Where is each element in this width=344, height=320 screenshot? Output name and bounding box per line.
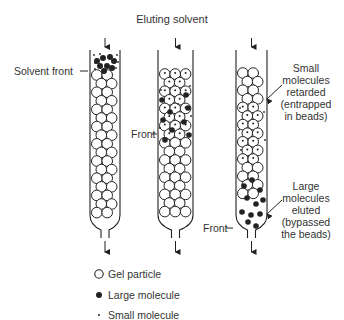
large-molecule-icon — [248, 212, 254, 218]
small-molecule-icon — [246, 114, 248, 116]
small-molecule-icon — [185, 89, 187, 91]
small-molecule-icon — [160, 89, 162, 91]
small-molecule-icon — [116, 54, 118, 56]
small-molecule-icon — [242, 157, 244, 159]
front-label-column-3: Front — [203, 222, 228, 234]
small-molecule-icon — [179, 98, 181, 100]
large-molecule-icon — [100, 55, 106, 61]
label-line: (entrapped — [271, 98, 341, 110]
small-molecules-retarded-label: Small molecules retarded (entrapped in b… — [271, 62, 341, 122]
small-molecule-icon — [257, 114, 259, 116]
gel-particle-icon — [160, 206, 171, 217]
large-molecule-icon — [253, 201, 259, 207]
large-molecule-icon — [244, 195, 250, 201]
large-molecule-icon — [159, 97, 165, 103]
small-molecule-icon — [238, 129, 240, 131]
small-molecule-icon — [257, 148, 259, 150]
large-molecule-icon — [253, 223, 259, 229]
label-line: in beads) — [271, 110, 341, 122]
label-line: the beads) — [271, 228, 341, 240]
large-molecule-icon — [249, 177, 255, 183]
large-molecule-icon — [109, 65, 115, 71]
legend-label: Gel particle — [108, 268, 161, 280]
large-molecule-icon — [260, 197, 266, 203]
small-molecule-icon — [117, 61, 119, 63]
small-molecule-icon — [242, 105, 244, 107]
legend-large-molecule: Large molecule — [94, 289, 180, 301]
gel-particle-icon — [180, 206, 191, 217]
large-molecule-icon — [185, 105, 191, 111]
small-molecule-icon — [93, 54, 95, 56]
small-molecule-icon — [242, 123, 244, 125]
legend-gel-particle: Gel particle — [94, 268, 161, 280]
small-molecule-icon — [242, 140, 244, 142]
large-molecules-eluted-label: Large molecules eluted (bypassed the bea… — [271, 180, 341, 240]
small-molecule-icon — [174, 89, 176, 91]
small-molecule-icon — [115, 67, 117, 69]
small-molecule-icon — [252, 123, 254, 125]
large-molecule-icon — [101, 68, 107, 74]
small-molecule-icon — [179, 81, 181, 83]
large-molecule-icon — [183, 92, 189, 98]
small-molecule-icon — [159, 127, 161, 129]
small-molecule-icon — [174, 124, 176, 126]
small-molecule-icon — [185, 72, 187, 74]
small-molecule-icon — [174, 72, 176, 74]
small-molecule-icon — [263, 111, 265, 113]
label-line: retarded — [271, 86, 341, 98]
large-molecule-icon — [167, 109, 173, 115]
filled-dot-icon — [94, 290, 104, 300]
label-line: Small — [271, 62, 341, 74]
gel-particle-icon — [170, 206, 181, 217]
small-molecule-icon — [168, 132, 170, 134]
small-molecule-icon — [164, 72, 166, 74]
gel-particle-icon — [92, 207, 103, 218]
legend-small-molecule: Small molecule — [94, 309, 179, 320]
small-molecule-icon — [177, 103, 179, 105]
small-molecule-icon — [179, 132, 181, 134]
open-circle-icon — [94, 269, 104, 279]
small-molecule-icon — [252, 105, 254, 107]
small-molecule-icon — [179, 115, 181, 117]
small-molecule-icon — [164, 106, 166, 108]
large-molecule-icon — [245, 219, 251, 225]
small-dot-icon — [94, 310, 104, 320]
small-molecule-icon — [168, 81, 170, 83]
small-molecule-icon — [240, 149, 242, 151]
gel-particle-icon — [102, 207, 113, 218]
large-molecule-icon — [169, 127, 175, 133]
gel-filtration-diagram — [0, 0, 344, 320]
large-molecule-icon — [111, 58, 117, 64]
label-line: molecules — [271, 74, 341, 86]
small-molecule-icon — [164, 89, 166, 91]
small-molecule-icon — [257, 131, 259, 133]
legend-label: Large molecule — [108, 289, 180, 301]
small-molecule-icon — [264, 139, 266, 141]
large-molecule-icon — [186, 132, 192, 138]
large-molecule-icon — [257, 211, 263, 217]
small-molecule-icon — [190, 115, 192, 117]
small-molecule-icon — [99, 53, 101, 55]
label-line: eluted — [271, 204, 341, 216]
small-molecule-icon — [174, 106, 176, 108]
front-label-column-2: Front — [131, 128, 156, 140]
large-molecule-icon — [97, 63, 103, 69]
label-line: molecules — [271, 192, 341, 204]
small-molecule-icon — [164, 124, 166, 126]
small-molecule-icon — [252, 157, 254, 159]
small-molecule-icon — [189, 85, 191, 87]
solvent-front-label: Solvent front — [14, 65, 73, 77]
large-molecule-icon — [181, 119, 187, 125]
large-molecule-icon — [160, 117, 166, 123]
small-molecule-icon — [168, 115, 170, 117]
large-molecule-icon — [239, 209, 245, 215]
legend-label: Small molecule — [108, 309, 179, 320]
small-molecule-icon — [94, 62, 96, 64]
small-molecule-icon — [239, 107, 241, 109]
small-molecule-icon — [94, 68, 96, 70]
label-line: Large — [271, 180, 341, 192]
small-molecule-icon — [246, 131, 248, 133]
eluting-solvent-label: Eluting solvent — [122, 13, 222, 25]
label-line: (bypassed — [271, 216, 341, 228]
large-molecule-icon — [241, 183, 247, 189]
